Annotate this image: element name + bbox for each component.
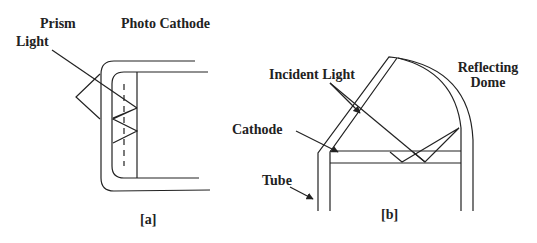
label-reflecting-dome: Reflecting Dome: [448, 60, 528, 90]
figure-a-drawing: [52, 50, 210, 191]
caption-b: [b]: [381, 207, 398, 222]
label-cathode: Cathode: [232, 122, 283, 137]
label-prism: Prism: [40, 16, 76, 31]
zigzag-reflection: [113, 108, 137, 143]
label-tube: Tube: [262, 173, 292, 188]
label-reflecting: Reflecting: [448, 60, 528, 75]
label-incident-light: Incident Light: [269, 67, 355, 82]
incident-ray: [330, 83, 425, 162]
label-light: Light: [16, 34, 49, 49]
tube-pointer: [290, 187, 313, 199]
reflected-zigzag: [390, 128, 459, 162]
light-ray: [52, 50, 137, 108]
outer-tube-wall: [101, 61, 210, 191]
inner-tube-wall: [112, 72, 208, 178]
label-photo-cathode: Photo Cathode: [121, 16, 210, 31]
caption-a: [a]: [140, 212, 156, 227]
label-dome: Dome: [448, 75, 528, 90]
